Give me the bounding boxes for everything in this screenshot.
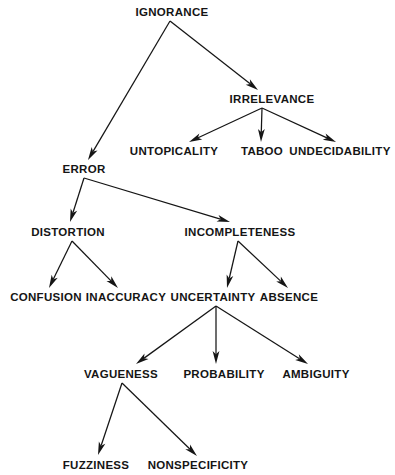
edge-line bbox=[238, 241, 281, 281]
edge-line bbox=[261, 108, 262, 132]
edge-error-to-incompleteness bbox=[84, 178, 230, 222]
edge-line bbox=[262, 108, 327, 138]
node-inaccuracy: INACCURACY bbox=[86, 292, 166, 304]
arrowhead-icon bbox=[246, 79, 258, 90]
edge-irrelevance-to-taboo bbox=[258, 108, 265, 142]
arrowhead-icon bbox=[295, 354, 308, 364]
node-untopicality: UNTOPICALITY bbox=[130, 146, 218, 158]
node-taboo: TABOO bbox=[241, 146, 283, 158]
ignorance-taxonomy-diagram: IGNORANCEIRRELEVANCEERRORUNTOPICALITYTAB… bbox=[0, 0, 395, 475]
arrowhead-icon bbox=[136, 354, 149, 364]
node-absence: ABSENCE bbox=[260, 292, 318, 304]
edge-line bbox=[73, 178, 84, 212]
edge-line bbox=[72, 241, 111, 281]
edge-line bbox=[170, 21, 250, 84]
node-undecidability: UNDECIDABILITY bbox=[289, 146, 390, 158]
edge-line bbox=[53, 241, 72, 279]
edge-line bbox=[229, 241, 238, 278]
edge-distortion-to-inaccuracy bbox=[72, 241, 118, 288]
edge-vagueness-to-fuzziness bbox=[98, 383, 122, 455]
node-error: ERROR bbox=[62, 164, 105, 176]
edge-uncertainty-to-ambiguity bbox=[216, 306, 308, 364]
edge-line bbox=[122, 383, 190, 449]
edge-vagueness-to-nonspecificity bbox=[122, 383, 197, 456]
node-confusion: CONFUSION bbox=[10, 292, 82, 304]
edge-distortion-to-confusion bbox=[49, 241, 72, 288]
edge-line bbox=[144, 306, 216, 358]
arrowhead-icon bbox=[88, 147, 98, 160]
edge-irrelevance-to-undecidability bbox=[262, 108, 336, 142]
edge-ignorance-to-irrelevance bbox=[170, 21, 258, 90]
node-nonspecificity: NONSPECIFICITY bbox=[148, 460, 249, 472]
node-ambiguity: AMBIGUITY bbox=[282, 369, 349, 381]
node-incompleteness: INCOMPLETENESS bbox=[185, 227, 296, 239]
node-distortion: DISTORTION bbox=[31, 227, 105, 239]
edge-uncertainty-to-vagueness bbox=[136, 306, 216, 364]
node-ignorance: IGNORANCE bbox=[136, 7, 209, 19]
edge-ignorance-to-error bbox=[88, 21, 170, 160]
edge-line bbox=[216, 306, 300, 359]
node-irrelevance: IRRELEVANCE bbox=[230, 94, 315, 106]
edge-line bbox=[198, 108, 262, 138]
edge-irrelevance-to-untopicality bbox=[189, 108, 262, 142]
edge-line bbox=[93, 21, 170, 151]
edge-incompleteness-to-absence bbox=[238, 241, 288, 288]
node-probability: PROBABILITY bbox=[183, 369, 264, 381]
arrowhead-icon bbox=[323, 133, 336, 142]
edge-uncertainty-to-probability bbox=[213, 306, 220, 364]
arrowhead-icon bbox=[49, 275, 58, 288]
node-uncertainty: UNCERTAINTY bbox=[171, 292, 256, 304]
edge-incompleteness-to-uncertainty bbox=[227, 241, 238, 288]
node-fuzziness: FUZZINESS bbox=[63, 460, 130, 472]
edge-error-to-distortion bbox=[70, 178, 84, 222]
arrowhead-icon bbox=[189, 133, 202, 142]
node-vagueness: VAGUENESS bbox=[84, 369, 158, 381]
edge-line bbox=[101, 383, 122, 446]
edge-line bbox=[84, 178, 220, 219]
